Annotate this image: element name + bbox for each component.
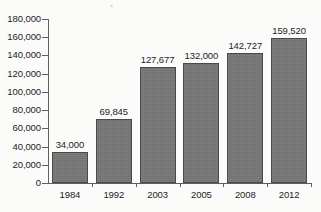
x-axis-tick-label: 2012 — [259, 189, 319, 200]
y-axis-tick-label: 40,000 — [1, 141, 41, 152]
bar-chart: 020,00040,00060,00080,000100,000120,0001… — [0, 0, 321, 212]
bar-value-label: 132,000 — [171, 50, 231, 61]
scan-artifact-speck — [110, 5, 113, 7]
bar-value-label: 159,520 — [259, 25, 319, 36]
y-axis-tick — [42, 183, 48, 184]
bar-2012 — [271, 38, 307, 183]
y-axis-tick-label: 140,000 — [1, 49, 41, 60]
y-axis-tick-label: 60,000 — [1, 122, 41, 133]
bar-2005 — [183, 63, 219, 183]
y-axis-tick-label: 180,000 — [1, 13, 41, 24]
y-axis-tick-label: 120,000 — [1, 68, 41, 79]
x-axis-tick — [92, 183, 93, 187]
bar-1984 — [52, 152, 88, 183]
bar-value-label: 69,845 — [84, 106, 144, 117]
y-axis-tick-label: 20,000 — [1, 159, 41, 170]
x-axis-tick — [180, 183, 181, 187]
x-axis-tick — [223, 183, 224, 187]
bar-value-label: 142,727 — [215, 40, 275, 51]
y-axis-tick-label: 160,000 — [1, 31, 41, 42]
bar-value-label: 34,000 — [40, 139, 100, 150]
y-axis-tick-label: 80,000 — [1, 104, 41, 115]
y-axis-label-group: 020,00040,00060,00080,000100,000120,0001… — [0, 0, 41, 212]
plot-area: 34,00069,845127,677132,000142,727159,520 — [48, 19, 311, 183]
y-axis-tick-label: 0 — [1, 177, 41, 188]
x-axis-tick — [136, 183, 137, 187]
x-axis-tick — [311, 183, 312, 187]
y-axis-tick-label: 100,000 — [1, 86, 41, 97]
bar-1992 — [96, 119, 132, 183]
x-axis-tick — [267, 183, 268, 187]
bar-2008 — [227, 53, 263, 183]
bar-2003 — [140, 67, 176, 183]
